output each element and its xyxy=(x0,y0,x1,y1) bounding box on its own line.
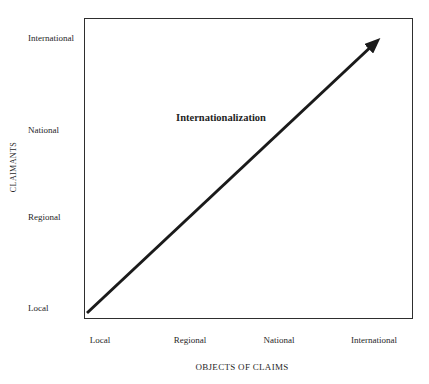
x-tick-national: National xyxy=(264,334,295,346)
y-tick-international: International xyxy=(28,32,74,44)
internationalization-chart: Internationalization International Natio… xyxy=(0,0,429,384)
y-tick-national: National xyxy=(28,124,59,136)
x-axis-title: OBJECTS OF CLAIMS xyxy=(195,361,288,373)
x-tick-local: Local xyxy=(90,334,111,346)
arrow-annotation: Internationalization xyxy=(176,111,266,125)
y-tick-regional: Regional xyxy=(28,211,61,223)
x-tick-international: International xyxy=(351,334,397,346)
y-axis-title: CLAIMANTS xyxy=(8,107,20,227)
y-tick-local: Local xyxy=(28,302,49,314)
x-tick-regional: Regional xyxy=(174,334,207,346)
plot-area xyxy=(84,18,413,319)
